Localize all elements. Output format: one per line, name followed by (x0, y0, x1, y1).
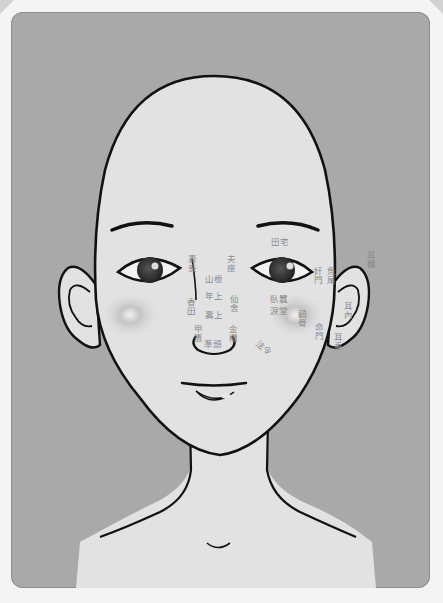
page-corner-right (429, 0, 443, 14)
label-shangen: 山根 (205, 275, 223, 284)
label-xianshe: 仙舍 (229, 295, 239, 313)
label-jingui: 金櫃 (228, 325, 238, 343)
label-wocan: 臥蠶 (270, 295, 288, 304)
label-ernei: 耳內 (343, 302, 353, 320)
label-xiangtian: 香田 (186, 298, 196, 316)
label-yuwei: 魚尾 (326, 267, 336, 285)
label-jiagui: 甲匱 (193, 325, 203, 343)
label-zhuntou: 準頭 (204, 340, 222, 349)
label-quangu: 顴骨 (297, 310, 307, 328)
label-qiqie: 妻妾 (187, 255, 197, 273)
label-jianmen: 奸門 (313, 267, 323, 285)
label-erchui: 耳垂 (333, 333, 343, 351)
label-mingmen: 命門 (314, 323, 324, 341)
label-fuzuo: 夫座 (226, 255, 236, 273)
label-nianshang: 年上 (205, 292, 223, 301)
label-tianzhai: 田宅 (271, 238, 289, 247)
label-erlun: 耳輪 (366, 251, 376, 269)
ear-left (59, 267, 100, 348)
label-leitang: 淚堂 (270, 307, 288, 316)
label-shoushang: 壽上 (205, 311, 223, 320)
blush-left (100, 291, 160, 339)
